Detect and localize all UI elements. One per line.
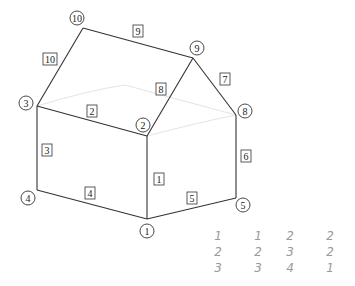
svg-text:5: 5 <box>190 193 195 204</box>
table-cell: 3 <box>214 261 222 275</box>
edge-label-8: 8 <box>156 83 166 95</box>
svg-text:4: 4 <box>88 188 93 199</box>
node-1: 1 <box>140 224 154 238</box>
edge-label-5: 5 <box>187 192 197 204</box>
edge-label-9: 9 <box>133 25 143 37</box>
node-labels-layer: 123458910 <box>19 11 252 238</box>
edge-label-6: 6 <box>241 150 251 162</box>
svg-text:6: 6 <box>244 151 249 162</box>
node-10: 10 <box>70 11 84 25</box>
svg-text:9: 9 <box>136 26 141 37</box>
table-cell: 2 <box>286 229 294 243</box>
svg-text:7: 7 <box>223 74 228 85</box>
svg-text:2: 2 <box>90 106 95 117</box>
handwritten-table: 112222323341 <box>214 229 334 275</box>
table-cell: 4 <box>286 261 294 275</box>
edge-7 <box>193 58 236 115</box>
svg-text:10: 10 <box>45 54 55 65</box>
table-cell: 1 <box>214 229 222 243</box>
node-3: 3 <box>19 96 33 110</box>
svg-text:5: 5 <box>241 200 246 211</box>
edge-8 <box>147 58 193 136</box>
edge-10 <box>37 28 83 106</box>
table-cell: 2 <box>326 245 334 259</box>
table-cell: 2 <box>326 229 334 243</box>
svg-text:3: 3 <box>24 98 29 109</box>
node-4: 4 <box>21 191 35 205</box>
table-cell: 3 <box>254 261 262 275</box>
node-9: 9 <box>190 41 204 55</box>
table-cell: 3 <box>286 245 294 259</box>
edge-label-1: 1 <box>154 173 164 185</box>
svg-text:2: 2 <box>141 120 146 131</box>
svg-text:10: 10 <box>72 13 82 24</box>
svg-text:8: 8 <box>243 106 248 117</box>
svg-text:4: 4 <box>26 193 31 204</box>
house-graph-diagram: 12345678910 123458910 112222323341 <box>0 0 355 286</box>
svg-text:1: 1 <box>157 174 162 185</box>
table-cell: 1 <box>326 261 334 275</box>
edge-label-2: 2 <box>87 105 97 117</box>
edge-label-7: 7 <box>220 73 230 85</box>
svg-text:9: 9 <box>195 43 200 54</box>
table-cell: 1 <box>254 229 262 243</box>
table-cell: 2 <box>214 245 222 259</box>
edge-label-3: 3 <box>42 144 52 156</box>
node-8: 8 <box>238 104 252 118</box>
edge-label-4: 4 <box>85 187 95 199</box>
node-2: 2 <box>136 118 150 132</box>
svg-text:3: 3 <box>45 145 50 156</box>
edge-label-10: 10 <box>43 53 57 65</box>
svg-text:8: 8 <box>159 84 164 95</box>
table-cell: 2 <box>254 245 262 259</box>
node-5: 5 <box>236 198 250 212</box>
svg-text:1: 1 <box>145 226 150 237</box>
